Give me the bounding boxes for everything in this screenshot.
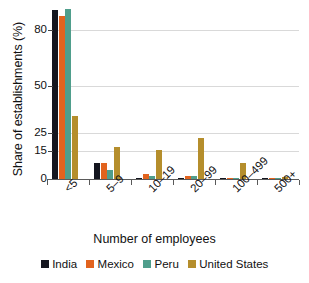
x-tick-mark bbox=[173, 180, 174, 185]
legend-swatch-icon bbox=[143, 260, 151, 268]
bar[interactable] bbox=[65, 9, 71, 179]
bar[interactable] bbox=[72, 116, 78, 179]
legend-label: United States bbox=[199, 258, 268, 270]
bar[interactable] bbox=[94, 163, 100, 179]
y-tick-mark bbox=[48, 86, 53, 87]
legend-item[interactable]: Peru bbox=[143, 258, 179, 270]
bar-group bbox=[173, 8, 215, 179]
bar[interactable] bbox=[52, 10, 58, 179]
y-tick-label: 0 bbox=[13, 172, 47, 184]
bar-group bbox=[47, 8, 89, 179]
y-tick-mark bbox=[48, 151, 53, 152]
y-axis-spine bbox=[47, 8, 48, 179]
y-tick-label: 25 bbox=[13, 126, 47, 138]
x-tick-mark bbox=[215, 180, 216, 185]
legend-swatch-icon bbox=[188, 260, 196, 268]
legend-item[interactable]: India bbox=[41, 258, 77, 270]
y-tick-mark bbox=[48, 133, 53, 134]
legend-item[interactable]: Mexico bbox=[86, 258, 134, 270]
legend-label: Mexico bbox=[98, 258, 134, 270]
bar-group bbox=[131, 8, 173, 179]
legend-item[interactable]: United States bbox=[188, 258, 269, 270]
x-tick-mark bbox=[89, 180, 90, 185]
bar-chart-figure: Share of establishments (%) 015255080 <5… bbox=[0, 0, 309, 283]
x-tick-mark bbox=[47, 180, 48, 185]
y-tick-mark bbox=[48, 30, 53, 31]
x-tick-mark bbox=[299, 180, 300, 185]
bar[interactable] bbox=[59, 16, 65, 179]
bar[interactable] bbox=[101, 163, 107, 179]
y-tick-label: 50 bbox=[13, 79, 47, 91]
bar-group bbox=[89, 8, 131, 179]
y-tick-label: 80 bbox=[13, 23, 47, 35]
y-tick-label: 15 bbox=[13, 144, 47, 156]
legend-label: Peru bbox=[155, 258, 179, 270]
y-axis-title: Share of establishments (%) bbox=[11, 14, 25, 184]
bar-group bbox=[257, 8, 299, 179]
x-tick-mark bbox=[257, 180, 258, 185]
legend-swatch-icon bbox=[41, 260, 49, 268]
x-axis-title: Number of employees bbox=[0, 232, 309, 246]
legend-swatch-icon bbox=[86, 260, 94, 268]
x-tick-mark bbox=[131, 180, 132, 185]
legend-label: India bbox=[52, 258, 77, 270]
chart-legend: IndiaMexicoPeruUnited States bbox=[0, 258, 309, 270]
bar-group bbox=[215, 8, 257, 179]
